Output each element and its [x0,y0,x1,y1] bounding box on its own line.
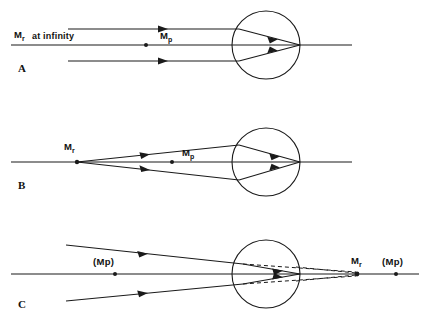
near-point-marker-c-left [113,272,117,276]
arrowhead-b-top [139,152,150,159]
virtual-ray-c-3 [296,267,356,273]
refracted-ray-c-top [243,264,300,274]
diagram-canvas: M r at infinity M p A M [0,0,427,332]
refracted-ray-a-bottom [239,45,300,61]
far-point-sub-a: r [22,35,25,42]
near-point-label-a: M [160,30,168,41]
refracted-ray-a-top [239,29,300,45]
far-point-marker-c [355,272,360,277]
panel-b: M r M p B [11,128,352,196]
arrowhead-b-bottom [139,165,150,172]
near-point-label-b: M [182,147,190,158]
near-point-sub-a: p [168,36,172,44]
far-point-label-b: M [64,141,72,152]
panel-c: (Mp) M r (Mp) C [11,240,419,310]
panel-a: M r at infinity M p A [11,11,352,79]
far-point-marker-b [75,160,79,164]
panel-letter-c: C [18,298,26,310]
far-point-sub-b: r [72,147,75,154]
arrowhead-a-bottom [158,58,168,65]
arrowhead-c-top [137,251,148,258]
far-point-label-c: M [351,255,359,266]
refracted-ray-b-top [239,145,300,162]
near-point-label-c-right: (Mp) [382,256,403,267]
far-point-sub-c: r [359,261,362,268]
refracted-ray-c-bottom [243,274,300,284]
incoming-ray-b-bottom [77,162,239,180]
optical-ray-diagram: M r at infinity M p A M [0,0,427,332]
panel-letter-a: A [18,62,26,74]
near-point-marker-a [144,43,148,47]
near-point-label-c-left: (Mp) [93,256,114,267]
virtual-ray-c-4 [296,275,356,281]
incoming-ray-b-top [77,145,239,162]
far-point-label-a: M [14,29,22,40]
panel-letter-b: B [18,179,26,191]
near-point-marker-b [170,160,174,164]
far-point-suffix-a: at infinity [32,31,74,41]
arrowhead-c-bottom [137,291,148,298]
near-point-sub-b: p [190,153,194,161]
incoming-ray-c-bottom [66,284,243,301]
near-point-marker-c-right [394,272,398,276]
refracted-ray-b-bottom [239,162,300,180]
